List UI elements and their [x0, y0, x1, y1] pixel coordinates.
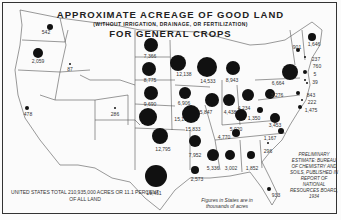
state-dot: [247, 151, 255, 159]
state-value-label: 286: [111, 111, 119, 117]
state-dot: [144, 38, 158, 52]
state-value-label: 1,646: [308, 41, 321, 47]
state-value-label: 3,002: [225, 165, 238, 171]
state-dot: [144, 86, 158, 100]
state-dot: [182, 105, 200, 123]
state-value-label: 296: [264, 148, 272, 154]
state-dot: [142, 62, 156, 76]
state-dot: [191, 166, 199, 174]
state-dot: [242, 89, 254, 101]
state-value-label: 1,167: [264, 135, 277, 141]
state-dot: [304, 79, 306, 81]
state-dot: [223, 94, 235, 106]
state-value-label: 901: [293, 44, 301, 50]
state-dot: [301, 99, 303, 101]
state-value-label: 2,059: [32, 58, 45, 64]
state-value-label: 12,795: [155, 146, 170, 152]
state-value-label: 843: [307, 92, 315, 98]
units-note: Figures in States are in thousands of ac…: [192, 197, 262, 209]
state-value-label: 7,366: [144, 53, 157, 59]
state-dot: [304, 56, 306, 58]
state-value-label: 12,138: [176, 71, 191, 77]
state-dot: [145, 165, 167, 187]
state-value-label: 5,336: [207, 165, 220, 171]
state-dot: [205, 93, 219, 107]
state-dot: [152, 128, 168, 144]
state-dot: [282, 64, 298, 80]
state-value-label: 542: [42, 29, 50, 35]
state-value-label: 5,847: [200, 109, 213, 115]
state-dot: [179, 87, 191, 99]
state-value-label: 6,664: [272, 80, 285, 86]
state-value-label: 760: [313, 63, 321, 69]
state-dot: [25, 106, 29, 110]
state-dot: [33, 48, 43, 58]
state-value-label: 9,690: [144, 101, 157, 107]
state-value-label: 87: [67, 66, 73, 72]
state-dot: [139, 108, 157, 126]
state-value-label: 3,276: [271, 92, 284, 98]
state-dot: [232, 129, 240, 137]
state-value-label: 5: [314, 71, 317, 77]
state-dot: [257, 107, 263, 113]
state-value-label: 237: [312, 56, 320, 62]
us-good-land-acreage-map: APPROXIMATE ACREAGE OF GOOD LAND (WITHOU…: [0, 0, 341, 220]
state-value-label: 15,833: [185, 126, 200, 132]
state-dot: [189, 135, 201, 147]
state-dot: [69, 63, 71, 65]
state-dot: [296, 91, 300, 95]
state-value-label: 7,952: [189, 152, 202, 158]
state-dot: [170, 55, 186, 71]
state-value-label: 222: [308, 99, 316, 105]
state-dot: [298, 105, 302, 109]
state-value-label: 933: [272, 192, 280, 198]
state-value-label: 8,943: [226, 77, 239, 83]
us-total-note: UNITED STATES TOTAL 210,935,000 ACRES OR…: [10, 189, 160, 203]
state-value-label: 14,533: [200, 78, 215, 84]
state-value-label: 39: [312, 79, 318, 85]
state-dot: [267, 142, 269, 144]
state-dot: [226, 61, 240, 75]
state-value-label: 3,453: [269, 122, 282, 128]
state-dot: [225, 150, 235, 160]
state-dot: [197, 57, 217, 77]
state-dot: [303, 70, 307, 74]
state-dot: [267, 187, 271, 191]
state-value-label: 1,475: [305, 107, 318, 113]
state-dot: [308, 33, 316, 41]
state-dot: [235, 109, 247, 121]
state-value-label: 4,770: [218, 134, 231, 140]
state-dot: [278, 128, 284, 134]
state-dot: [306, 82, 308, 84]
state-value-label: 1,852: [246, 165, 259, 171]
map-title: APPROXIMATE ACREAGE OF GOOD LAND: [0, 9, 341, 20]
state-value-label: 2,573: [191, 176, 204, 182]
state-value-label: 478: [24, 111, 32, 117]
state-value-label: 8,775: [144, 77, 157, 83]
state-value-label: 1,350: [248, 115, 261, 121]
state-dot: [207, 149, 219, 161]
state-dot: [114, 107, 116, 109]
source-note: PRELIMINARY ESTIMATE: BUREAU OF CHEMISTR…: [290, 152, 338, 200]
